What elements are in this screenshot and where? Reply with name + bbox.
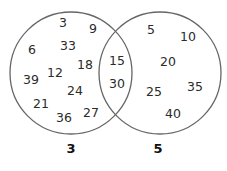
set-element-5-only: 20 xyxy=(160,54,176,69)
set-element-3-only: 9 xyxy=(89,21,97,36)
intersection-elements: 1530 xyxy=(109,53,125,91)
set-element-3-only: 12 xyxy=(47,65,63,80)
set-element-5-only: 40 xyxy=(165,106,181,121)
set-element-3-only: 33 xyxy=(60,38,76,53)
set-element-both: 30 xyxy=(109,76,125,91)
set-a-only-elements: 3933618123924212736 xyxy=(23,15,99,125)
set-element-5-only: 5 xyxy=(147,22,155,37)
set-element-3-only: 24 xyxy=(67,83,83,98)
set-element-3-only: 36 xyxy=(56,110,72,125)
set-element-3-only: 21 xyxy=(33,96,49,111)
set-label-3: 3 xyxy=(66,141,75,156)
set-element-3-only: 3 xyxy=(59,15,67,30)
set-element-3-only: 27 xyxy=(83,105,99,120)
set-element-3-only: 18 xyxy=(77,57,93,72)
venn-diagram: 3933618123924212736 1530 51020352540 3 5 xyxy=(0,0,227,171)
set-label-5: 5 xyxy=(153,141,162,156)
set-element-5-only: 35 xyxy=(187,79,203,94)
set-element-both: 15 xyxy=(109,53,125,68)
set-element-3-only: 6 xyxy=(28,42,36,57)
set-b-only-elements: 51020352540 xyxy=(146,22,203,121)
set-circle-multiples-of-5 xyxy=(99,12,221,134)
set-element-3-only: 39 xyxy=(23,72,39,87)
set-element-5-only: 10 xyxy=(180,29,196,44)
set-element-5-only: 25 xyxy=(146,84,162,99)
